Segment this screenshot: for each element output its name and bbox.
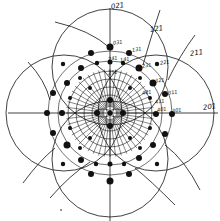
- pole-dot: [88, 136, 92, 140]
- pole-dot: [61, 62, 65, 66]
- pole-dot: [138, 76, 142, 80]
- pole-dot: [128, 136, 132, 140]
- pole-dot: [120, 110, 126, 116]
- pole-dot: [94, 110, 100, 116]
- pole-dot: [108, 162, 113, 167]
- pole-dot: [50, 90, 56, 96]
- zone-arc: [135, 168, 175, 205]
- radial-spoke: [79, 82, 106, 109]
- pole-dot: [122, 162, 126, 166]
- pole-dot: [64, 142, 71, 149]
- pole-dot: [64, 80, 70, 86]
- pole-dot: [136, 155, 142, 161]
- radial-spoke: [114, 117, 141, 144]
- pole-dot: [50, 130, 56, 136]
- pole-dot: [88, 171, 94, 177]
- pole-dot: [78, 76, 82, 80]
- zone-arc: [165, 145, 200, 190]
- radial-spoke: [79, 117, 106, 144]
- center-pole-dot: [108, 111, 113, 116]
- pole-dot: [44, 110, 50, 116]
- pole-dot: [95, 61, 99, 65]
- zone-arc: [28, 62, 50, 100]
- zone-arc: [143, 10, 160, 65]
- radial-spoke: [114, 82, 141, 109]
- pole-dot: [155, 162, 159, 166]
- pole-dot: [88, 50, 94, 56]
- pole-dot: [148, 126, 152, 130]
- pole-dot: [148, 96, 152, 100]
- zone-arc: [55, 22, 110, 48]
- pole-dot: [59, 110, 65, 116]
- pole-dot: [88, 86, 92, 90]
- pole-dot: [107, 97, 113, 103]
- pole-dot: [78, 146, 82, 150]
- pole-dot: [107, 178, 114, 185]
- pole-dot: [150, 142, 156, 148]
- pole-dot: [78, 65, 84, 71]
- pole-dot: [138, 146, 142, 150]
- pole-dot: [94, 162, 98, 166]
- projection-figure: [0, 0, 220, 221]
- pole-dot: [107, 123, 113, 129]
- stereographic-projection-diagram: 0210311311211412412312212112513213114114…: [0, 0, 220, 221]
- pole-dot: [128, 86, 132, 90]
- pole-dot: [60, 209, 62, 211]
- pole-dot: [155, 62, 159, 66]
- pole-dot: [68, 126, 72, 130]
- pole-dot: [162, 131, 168, 137]
- pole-dot: [78, 157, 84, 163]
- pole-dot: [61, 162, 65, 166]
- pole-dot: [126, 171, 132, 177]
- pole-dot: [68, 96, 72, 100]
